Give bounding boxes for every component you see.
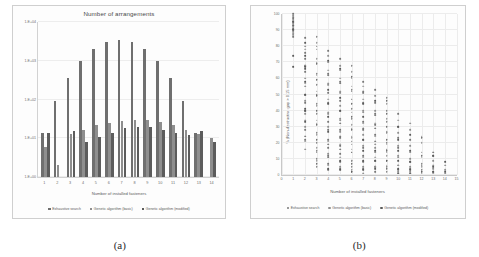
chart-b-data-point xyxy=(316,74,318,76)
chart-b-x-tick: 6 xyxy=(351,177,353,181)
chart-b-data-point xyxy=(421,165,423,167)
chart-b-data-point xyxy=(304,37,306,39)
chart-b-x-tick: 2 xyxy=(304,177,306,181)
caption-b: (b) xyxy=(240,239,479,251)
chart-b-x-tick: 13 xyxy=(431,177,435,181)
chart-b-gridline-h xyxy=(282,45,457,46)
chart-a-bar xyxy=(213,142,216,177)
chart-b-y-tick: 60 xyxy=(276,76,280,80)
chart-b-data-point xyxy=(327,168,329,170)
chart-b-data-point xyxy=(351,78,353,80)
chart-b-data-point xyxy=(444,165,446,167)
chart-b-data-point xyxy=(374,136,376,138)
chart-b-x-tick: 3 xyxy=(316,177,318,181)
chart-b-data-point xyxy=(351,111,353,113)
chart-b-data-point xyxy=(362,147,364,149)
chart-b-data-point xyxy=(362,127,364,129)
chart-a-title: Number of arrangements xyxy=(13,10,225,17)
chart-b-data-point xyxy=(409,161,411,163)
chart-b-data-point xyxy=(304,126,306,128)
chart-b-data-point xyxy=(397,126,399,128)
chart-b-data-point xyxy=(327,61,329,63)
chart-b-data-point xyxy=(351,152,353,154)
chart-b-data-point xyxy=(304,49,306,51)
chart-b-data-point xyxy=(386,168,388,170)
chart-b-data-point xyxy=(327,89,329,91)
chart-b-data-point xyxy=(409,139,411,141)
chart-b-data-point xyxy=(362,103,364,105)
chart-b-data-point xyxy=(374,89,376,91)
chart-b-data-point xyxy=(327,165,329,167)
chart-b-data-point xyxy=(339,58,341,60)
chart-b-data-point xyxy=(374,123,376,125)
chart-b-data-point xyxy=(386,113,388,115)
chart-b-data-point xyxy=(351,71,353,73)
chart-b-x-tick: 10 xyxy=(396,177,400,181)
chart-b-data-point xyxy=(374,102,376,104)
chart-b-data-point xyxy=(316,139,318,141)
chart-b-data-point xyxy=(362,134,364,136)
chart-a-legend-item[interactable]: Genetic algorithm (basic) xyxy=(90,207,133,211)
chart-b-data-point xyxy=(304,42,306,44)
chart-a-x-tick: 6 xyxy=(102,181,115,188)
chart-a-y-tick: 1.E+02 xyxy=(25,98,37,102)
chart-a-bar-group xyxy=(103,22,116,177)
chart-b-gridline-h xyxy=(282,61,457,62)
chart-b-legend-label: Genetic algorithm (modified) xyxy=(384,206,428,210)
chart-a-legend-item[interactable]: Genetic algorithm (modified) xyxy=(142,207,190,211)
chart-b-data-point xyxy=(316,42,318,44)
chart-b-data-point xyxy=(351,144,353,146)
chart-a-bar-group xyxy=(192,22,205,177)
chart-b-data-point xyxy=(386,121,388,123)
chart-a-bar-group xyxy=(116,22,129,177)
chart-b-data-point xyxy=(316,166,318,168)
chart-a-x-tick: 4 xyxy=(77,181,90,188)
chart-b-data-point xyxy=(327,144,329,146)
chart-b-data-point xyxy=(316,63,318,65)
chart-b-data-point xyxy=(409,150,411,152)
chart-b-x-tick: 1 xyxy=(292,177,294,181)
chart-a-legend-item[interactable]: Exhaustive search xyxy=(48,207,81,211)
chart-b-data-point xyxy=(386,97,388,99)
chart-b-x-tick: 8 xyxy=(374,177,376,181)
chart-b-data-point xyxy=(397,132,399,134)
chart-b-legend-item[interactable]: Exhaustive search xyxy=(287,206,320,210)
chart-a-bar xyxy=(162,130,165,177)
chart-b-data-point xyxy=(316,124,318,126)
chart-a-y-tick: 1.E+00 xyxy=(25,175,37,179)
chart-b-data-point xyxy=(304,121,306,123)
chart-b-data-point xyxy=(339,136,341,138)
chart-b-data-point xyxy=(316,110,318,112)
chart-a-legend-label: Genetic algorithm (modified) xyxy=(146,207,190,211)
chart-a-x-tick: 9 xyxy=(141,181,154,188)
chart-b-data-point xyxy=(304,82,306,84)
chart-b-data-point xyxy=(362,99,364,101)
chart-b-data-point xyxy=(304,102,306,104)
chart-b-data-point xyxy=(316,113,318,115)
chart-b-data-point xyxy=(339,70,341,72)
chart-b-data-point xyxy=(386,118,388,120)
chart-b-data-point xyxy=(432,166,434,168)
chart-b-data-point xyxy=(339,160,341,162)
chart-b-data-point xyxy=(362,116,364,118)
panel-a: Number of arrangements 1.E+001.E+011.E+0… xyxy=(0,0,240,257)
chart-a-bar-groups xyxy=(38,22,219,177)
chart-b-y-tick: 80 xyxy=(276,44,280,48)
chart-b-data-point xyxy=(304,71,306,73)
chart-b-data-point xyxy=(409,169,411,171)
chart-b-legend-item[interactable]: Genetic algorithm (basic) xyxy=(328,206,371,210)
chart-a-bar-group xyxy=(167,22,180,177)
chart-b-data-point xyxy=(351,124,353,126)
chart-b-legend-item[interactable]: Genetic algorithm (modified) xyxy=(380,206,428,210)
chart-b-x-tick: 5 xyxy=(339,177,341,181)
chart-b-data-point xyxy=(339,153,341,155)
chart-b-data-point xyxy=(432,160,434,162)
chart-b-data-point xyxy=(362,166,364,168)
chart-a-y-tick: 1.E+04 xyxy=(25,20,37,24)
chart-b-data-point xyxy=(339,105,341,107)
chart-b-data-point xyxy=(351,166,353,168)
chart-b-data-point xyxy=(327,92,329,94)
chart-b-data-point xyxy=(386,100,388,102)
chart-b-data-point xyxy=(327,50,329,52)
chart-b-data-point xyxy=(339,118,341,120)
